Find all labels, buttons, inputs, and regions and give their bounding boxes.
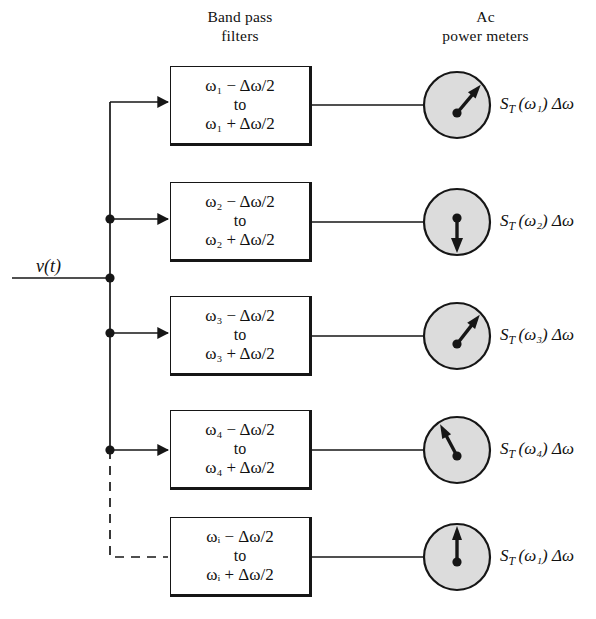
junction-dot-2	[105, 214, 114, 223]
filter-mid-3: to	[234, 326, 246, 345]
ac-power-meter-3	[424, 303, 490, 369]
meter-pivot-2	[452, 213, 461, 222]
band-pass-filter-box-3[interactable]: ω₃ − Δω/2 to ω₃ + Δω/2	[170, 296, 312, 376]
junction-dot-4	[105, 445, 114, 454]
meter-output-label-1: ST (ω₁) Δω	[500, 94, 574, 117]
filter-low-3: ω₃ − Δω/2	[205, 306, 275, 326]
filter-mid-5: to	[234, 547, 246, 566]
filter-mid-2: to	[234, 212, 246, 231]
filter-mid-1: to	[234, 96, 246, 115]
filter-high-1: ω₁ + Δω/2	[205, 114, 275, 134]
filter-low-2: ω₂ − Δω/2	[205, 192, 275, 212]
meter-output-label-5: ST (ω₁) Δω	[500, 546, 574, 569]
filter-low-5: ωᵢ − Δω/2	[206, 527, 273, 547]
ac-power-meter-1	[424, 72, 490, 138]
band-pass-filter-box-1[interactable]: ω₁ − Δω/2 to ω₁ + Δω/2	[170, 66, 312, 146]
meter-output-text-4: ST (ω₄) Δω	[500, 439, 574, 458]
meter-pivot-4	[452, 451, 461, 460]
meter-output-text-5: ST (ω₁) Δω	[500, 546, 574, 565]
meter-output-label-3: ST (ω₃) Δω	[500, 325, 574, 348]
ac-power-meter-4	[424, 417, 490, 483]
ac-power-meter-2	[424, 189, 490, 255]
band-pass-filter-box-5[interactable]: ωᵢ − Δω/2 to ωᵢ + Δω/2	[170, 517, 312, 597]
filter-high-3: ω₃ + Δω/2	[205, 344, 275, 364]
dashed-bus-continuation	[110, 450, 168, 557]
meter-output-label-2: ST (ω₂) Δω	[500, 211, 574, 234]
junction-dot-3	[105, 328, 114, 337]
filter-high-5: ωᵢ + Δω/2	[206, 565, 273, 585]
filter-high-2: ω₂ + Δω/2	[205, 230, 275, 250]
band-pass-filter-box-2[interactable]: ω₂ − Δω/2 to ω₂ + Δω/2	[170, 182, 312, 262]
filter-low-4: ω₄ − Δω/2	[205, 420, 275, 440]
filter-mid-4: to	[234, 440, 246, 459]
meter-output-label-4: ST (ω₄) Δω	[500, 439, 574, 462]
ac-power-meter-5	[424, 524, 490, 590]
junction-dot-input	[105, 273, 114, 282]
meter-pivot-3	[452, 339, 461, 348]
filter-high-4: ω₄ + Δω/2	[205, 458, 275, 478]
meter-output-text-1: ST (ω₁) Δω	[500, 94, 574, 113]
meter-output-text-2: ST (ω₂) Δω	[500, 211, 574, 230]
meter-output-text-3: ST (ω₃) Δω	[500, 325, 574, 344]
meter-pivot-5	[452, 557, 461, 566]
block-diagram-figure: Band pass filters Ac power meters v(t)	[0, 0, 596, 619]
filter-low-1: ω₁ − Δω/2	[205, 76, 275, 96]
band-pass-filter-box-4[interactable]: ω₄ − Δω/2 to ω₄ + Δω/2	[170, 410, 312, 490]
meter-pivot-1	[452, 108, 461, 117]
